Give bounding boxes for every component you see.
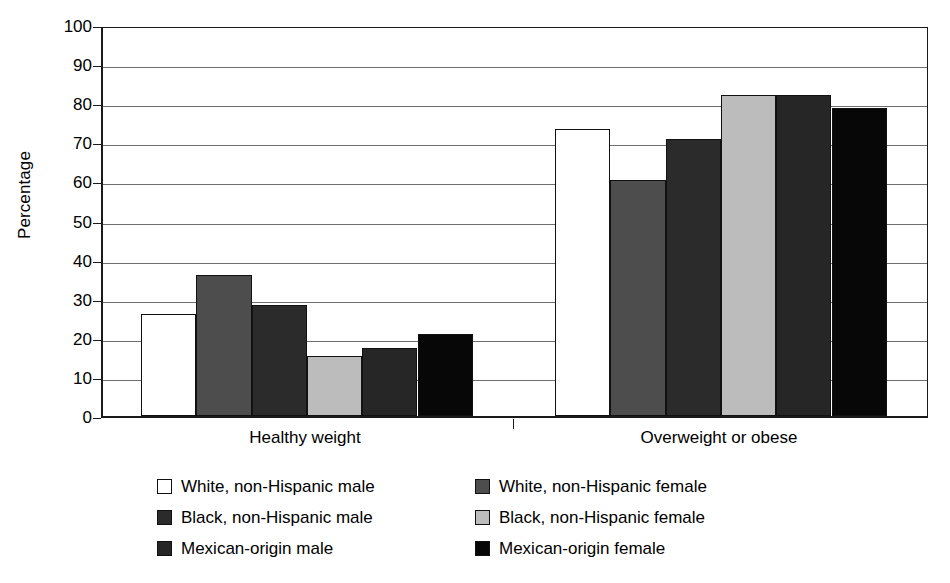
y-axis-tick-mark xyxy=(93,223,101,224)
legend-swatch-icon xyxy=(475,510,490,525)
y-axis-tick-label: 30 xyxy=(44,292,92,309)
legend-label: Black, non-Hispanic male xyxy=(181,508,373,528)
y-axis-tick-mark xyxy=(93,27,101,28)
y-axis-tick-mark xyxy=(93,183,101,184)
bar xyxy=(721,95,776,416)
y-axis-tick-mark xyxy=(93,379,101,380)
y-axis-tick-mark xyxy=(93,418,101,419)
bar xyxy=(776,95,831,416)
y-axis-tick-label: 20 xyxy=(44,331,92,348)
gridline xyxy=(103,67,927,68)
y-axis-tick-label: 40 xyxy=(44,253,92,270)
y-axis-tick-label: 10 xyxy=(44,370,92,387)
bar xyxy=(141,314,196,416)
bar xyxy=(307,356,362,416)
legend-label: White, non-Hispanic male xyxy=(181,477,375,497)
legend-label: White, non-Hispanic female xyxy=(499,477,707,497)
legend-swatch-icon xyxy=(157,479,172,494)
x-axis-tick-mark xyxy=(513,419,514,429)
y-axis-tick-label: 50 xyxy=(44,214,92,231)
y-axis-tick-mark xyxy=(93,262,101,263)
y-axis-tick-mark xyxy=(93,105,101,106)
y-axis-tick-mark xyxy=(93,144,101,145)
y-axis-tick-label: 80 xyxy=(44,96,92,113)
legend-swatch-icon xyxy=(475,541,490,556)
y-axis-tick-label: 60 xyxy=(44,174,92,191)
x-axis-category-label: Overweight or obese xyxy=(589,428,849,448)
legend-swatch-icon xyxy=(475,479,490,494)
bar xyxy=(362,348,417,416)
chart-legend: White, non-Hispanic maleWhite, non-Hispa… xyxy=(157,471,817,564)
bar xyxy=(555,129,610,416)
y-axis-tick-label: 70 xyxy=(44,135,92,152)
legend-item: White, non-Hispanic female xyxy=(475,477,817,497)
legend-item: White, non-Hispanic male xyxy=(157,477,475,497)
y-axis-tick-label: 0 xyxy=(44,409,92,426)
y-axis-title: Percentage xyxy=(15,125,35,265)
x-axis-category-label: Healthy weight xyxy=(175,428,435,448)
bar xyxy=(832,108,887,416)
legend-swatch-icon xyxy=(157,510,172,525)
y-axis-tick-label: 90 xyxy=(44,57,92,74)
legend-label: Black, non-Hispanic female xyxy=(499,508,705,528)
y-axis-tick-mark xyxy=(93,66,101,67)
plot-area xyxy=(101,27,928,418)
legend-item: Mexican-origin female xyxy=(475,539,817,559)
legend-item: Black, non-Hispanic female xyxy=(475,508,817,528)
bar xyxy=(610,180,665,416)
y-axis-tick-mark xyxy=(93,340,101,341)
chart-root: Percentage 1009080706050403020100 Health… xyxy=(0,0,950,583)
legend-item: Black, non-Hispanic male xyxy=(157,508,475,528)
y-axis-tick-label: 100 xyxy=(44,18,92,35)
bar xyxy=(418,334,473,417)
bar xyxy=(252,305,307,416)
legend-swatch-icon xyxy=(157,541,172,556)
legend-item: Mexican-origin male xyxy=(157,539,475,559)
y-axis-tick-mark xyxy=(93,301,101,302)
bar xyxy=(666,139,721,416)
legend-label: Mexican-origin female xyxy=(499,539,665,559)
bar xyxy=(196,275,251,416)
legend-label: Mexican-origin male xyxy=(181,539,333,559)
